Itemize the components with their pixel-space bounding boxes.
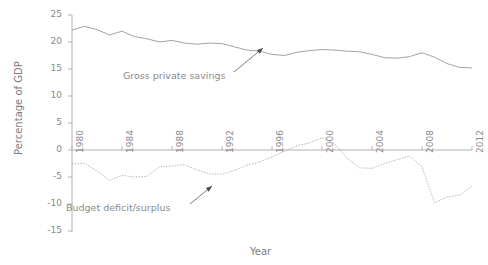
y-axis-tick-label: 25	[36, 10, 62, 19]
x-axis-tick-label: 1996	[276, 130, 285, 153]
annotation-label-budget-deficit-surplus: Budget deficit/surplus	[66, 203, 170, 213]
axis-lines	[72, 15, 472, 232]
x-axis-tick-label: 1988	[176, 130, 185, 153]
y-axis-tick-label: 0	[36, 145, 62, 154]
x-axis-tick-label: 1984	[126, 130, 135, 153]
y-axis-tick-label: -5	[36, 172, 62, 181]
x-axis-tick-label: 1992	[226, 130, 235, 153]
x-axis-tick-label: 2008	[426, 130, 435, 153]
x-axis-title: Year	[250, 247, 271, 257]
y-axis-title: Percentage of GDP	[14, 61, 24, 155]
chart-figure: 2520151050-5-10-15 198019841988199219962…	[0, 0, 488, 265]
x-axis-tick-label: 2000	[326, 130, 335, 153]
y-axis-tick-label: -10	[36, 199, 62, 208]
y-axis-tick-label: 20	[36, 37, 62, 46]
chart-plot-area	[0, 0, 488, 265]
y-axis-ticks	[68, 15, 72, 231]
x-axis-tick-label: 1980	[76, 130, 85, 153]
y-axis-tick-label: 5	[36, 118, 62, 127]
y-axis-tick-label: -15	[36, 226, 62, 235]
x-axis-tick-label: 2012	[476, 130, 485, 153]
x-axis-tick-label: 2004	[376, 130, 385, 153]
annotation-label-gross-private-savings: Gross private savings	[123, 71, 225, 81]
data-series-lines	[72, 26, 472, 203]
y-axis-tick-label: 15	[36, 64, 62, 73]
y-axis-tick-label: 10	[36, 91, 62, 100]
series-line-1	[72, 26, 472, 68]
